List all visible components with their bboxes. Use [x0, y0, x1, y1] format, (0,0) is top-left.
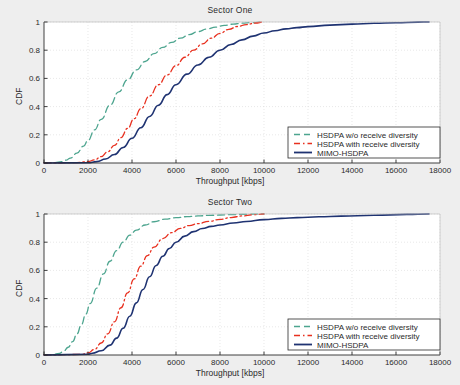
- cdf-figure: Sector One 02000400060008000100001200014…: [0, 0, 460, 385]
- y-axis-label-sector-two: CDF: [14, 280, 24, 297]
- x-axis-label-sector-one: Throughput [kbps]: [0, 176, 460, 186]
- y-tick-label: 0.6: [29, 266, 41, 275]
- x-tick-label: 0: [42, 166, 47, 175]
- y-tick-label: 0: [36, 351, 41, 360]
- legend-label: HSDPA with receive diversity: [317, 332, 420, 341]
- x-tick-label: 10000: [253, 358, 276, 367]
- y-tick-label: 0.4: [29, 103, 41, 112]
- y-tick-label: 0.2: [29, 131, 41, 140]
- x-tick-label: 14000: [341, 358, 364, 367]
- y-tick-label: 1: [36, 18, 41, 27]
- x-tick-label: 2000: [79, 358, 97, 367]
- legend-label: HSDPA w/o receive diversity: [317, 131, 418, 140]
- x-tick-label: 8000: [211, 166, 229, 175]
- x-tick-label: 16000: [385, 358, 408, 367]
- plot-svg-sector-two: 0200040006000800010000120001400016000180…: [0, 192, 460, 384]
- chart-panel-sector-one: Sector One 02000400060008000100001200014…: [0, 0, 460, 192]
- x-axis-label-sector-two: Throughput [kbps]: [0, 368, 460, 378]
- chart-panel-sector-two: Sector Two 02000400060008000100001200014…: [0, 192, 460, 384]
- y-axis-label-sector-one: CDF: [14, 88, 24, 105]
- x-tick-label: 10000: [253, 166, 276, 175]
- x-tick-label: 12000: [297, 166, 320, 175]
- y-tick-label: 1: [36, 210, 41, 219]
- x-tick-label: 6000: [167, 358, 185, 367]
- x-tick-label: 0: [42, 358, 47, 367]
- plot-svg-sector-one: 0200040006000800010000120001400016000180…: [0, 0, 460, 192]
- y-tick-label: 0.8: [29, 46, 41, 55]
- x-tick-label: 16000: [385, 166, 408, 175]
- legend-label: HSDPA with receive diversity: [317, 140, 420, 149]
- legend: HSDPA w/o receive diversityHSDPA with re…: [288, 127, 440, 158]
- y-tick-label: 0.6: [29, 74, 41, 83]
- legend-label: MIMO-HSDPA: [317, 341, 369, 350]
- x-tick-label: 14000: [341, 166, 364, 175]
- x-tick-label: 8000: [211, 358, 229, 367]
- legend: HSDPA w/o receive diversityHSDPA with re…: [288, 319, 440, 350]
- y-tick-label: 0.4: [29, 295, 41, 304]
- x-tick-label: 6000: [167, 166, 185, 175]
- x-tick-label: 18000: [429, 166, 452, 175]
- x-tick-label: 2000: [79, 166, 97, 175]
- x-tick-label: 12000: [297, 358, 320, 367]
- x-tick-label: 18000: [429, 358, 452, 367]
- y-tick-label: 0.2: [29, 323, 41, 332]
- x-tick-label: 4000: [123, 358, 141, 367]
- legend-label: MIMO-HSDPA: [317, 149, 369, 158]
- x-tick-label: 4000: [123, 166, 141, 175]
- legend-label: HSDPA w/o receive diversity: [317, 323, 418, 332]
- y-tick-label: 0: [36, 159, 41, 168]
- y-tick-label: 0.8: [29, 238, 41, 247]
